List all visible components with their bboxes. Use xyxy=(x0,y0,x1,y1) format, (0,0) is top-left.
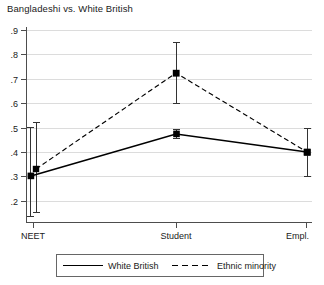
y-tick-label: .5 xyxy=(10,124,18,134)
legend-label-white-british: White British xyxy=(108,261,159,271)
error-bars-ethnic-minority xyxy=(33,42,311,213)
y-tick-label: .9 xyxy=(10,26,18,36)
chart-legend: White British Ethnic minority xyxy=(57,255,277,277)
data-point-student xyxy=(173,131,180,138)
data-point-empl xyxy=(304,149,311,156)
line-white-british xyxy=(31,134,307,176)
data-point-student xyxy=(173,70,180,77)
y-tick-label: .3 xyxy=(10,172,18,182)
x-tick-label-neet: NEET xyxy=(21,231,46,241)
x-axis-ticks xyxy=(34,223,307,229)
line-ethnic-minority xyxy=(36,73,307,169)
y-tick-label: .8 xyxy=(10,50,18,60)
y-tick-label: .7 xyxy=(10,75,18,85)
chart-container: Bangladeshi vs. White British xyxy=(0,0,324,285)
legend-label-ethnic-minority: Ethnic minority xyxy=(217,261,277,271)
y-tick-label: .2 xyxy=(10,197,18,207)
x-tick-label-empl: Empl. xyxy=(286,231,309,241)
series-ethnic-minority xyxy=(33,42,311,213)
x-tick-label-student: Student xyxy=(160,231,192,241)
chart-plot-area: .9 .8 .7 .6 .5 .4 .3 .2 NEET Student Emp… xyxy=(0,0,324,285)
y-tick-label: .4 xyxy=(10,148,18,158)
data-point-neet xyxy=(33,166,39,172)
x-axis-tick-labels: NEET Student Empl. xyxy=(21,231,309,241)
y-axis-tick-labels: .9 .8 .7 .6 .5 .4 .3 .2 xyxy=(10,26,18,207)
error-bars-white-british xyxy=(27,127,311,217)
series-white-british xyxy=(27,127,311,217)
markers-white-british xyxy=(28,131,311,180)
y-gridlines xyxy=(27,31,313,202)
markers-ethnic-minority xyxy=(33,70,311,172)
data-point-neet xyxy=(28,173,35,180)
y-tick-label: .6 xyxy=(10,99,18,109)
y-axis-ticks xyxy=(21,31,27,202)
